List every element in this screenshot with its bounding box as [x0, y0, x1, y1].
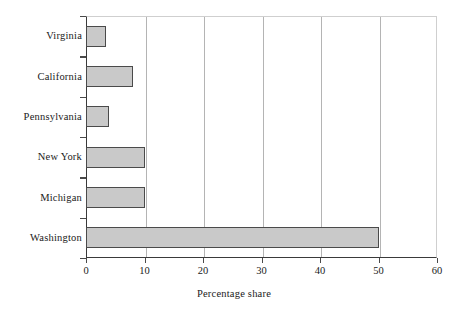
x-tick-label-20: 20 [198, 265, 209, 277]
y-tick-5 [80, 218, 86, 219]
x-tick-0 [86, 258, 87, 263]
bar-california[interactable] [86, 66, 133, 87]
y-axis-labels: Virginia California Pennsylvania New Yor… [0, 16, 82, 258]
y-tick-2 [80, 97, 86, 98]
y-label-new-york: New York [38, 151, 82, 163]
x-tick-10 [145, 258, 146, 263]
y-tick-3 [80, 137, 86, 138]
bars-layer [86, 16, 437, 258]
x-axis-title: Percentage share [0, 288, 468, 299]
bar-new-york[interactable] [86, 147, 145, 168]
bar-washington[interactable] [86, 227, 379, 248]
x-tick-label-0: 0 [83, 265, 88, 277]
y-label-washington: Washington [30, 232, 82, 244]
bar-michigan[interactable] [86, 187, 145, 208]
y-label-pennsylvania: Pennsylvania [24, 111, 82, 123]
x-tick-label-10: 10 [139, 265, 150, 277]
x-tick-20 [203, 258, 204, 263]
bar-pennsylvania[interactable] [86, 106, 109, 127]
x-tick-40 [320, 258, 321, 263]
y-tick-0 [80, 16, 86, 17]
x-tick-30 [262, 258, 263, 263]
y-label-california: California [37, 71, 82, 83]
x-tick-50 [379, 258, 380, 263]
x-tick-60 [437, 258, 438, 263]
y-label-michigan: Michigan [40, 192, 82, 204]
x-tick-label-50: 50 [373, 265, 384, 277]
y-tick-4 [80, 177, 86, 178]
x-tick-label-60: 60 [432, 265, 443, 277]
x-tick-label-30: 30 [256, 265, 267, 277]
bar-chart: Virginia California Pennsylvania New Yor… [0, 0, 468, 319]
y-tick-1 [80, 56, 86, 57]
x-tick-label-40: 40 [315, 265, 326, 277]
y-label-virginia: Virginia [46, 30, 82, 42]
bar-virginia[interactable] [86, 26, 106, 47]
